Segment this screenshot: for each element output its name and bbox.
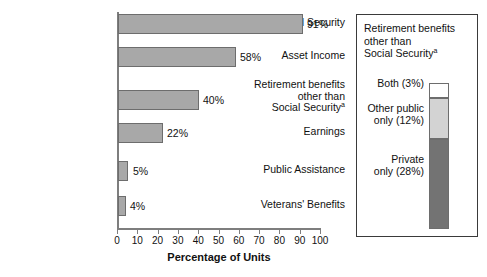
stack-segment-both bbox=[429, 83, 449, 98]
x-tick-80 bbox=[279, 229, 280, 234]
bar-value-earnings: 22% bbox=[167, 127, 188, 139]
bar-value-social-security: 91% bbox=[307, 18, 328, 30]
x-tick-label-100: 100 bbox=[307, 235, 333, 246]
bar-asset-income bbox=[118, 47, 236, 67]
bar-value-veterans-benefits: 4% bbox=[130, 200, 145, 212]
breakdown-panel-title: Retirement benefits other than Social Se… bbox=[364, 22, 476, 60]
x-axis-title: Percentage of Units bbox=[117, 251, 321, 263]
bar-chart-panel: Social Security Asset Income Retirement … bbox=[0, 0, 345, 277]
category-label-retirement-benefits: Retirement benefits other than Social Se… bbox=[235, 79, 345, 114]
bar-veterans-benefits bbox=[118, 196, 126, 216]
x-tick-20 bbox=[158, 229, 159, 234]
segment-label-other-public-only: Other public only (12%) bbox=[356, 102, 424, 126]
bar-value-asset-income: 58% bbox=[240, 51, 261, 63]
x-tick-0 bbox=[117, 229, 118, 234]
x-tick-10 bbox=[137, 229, 138, 234]
bar-value-public-assistance: 5% bbox=[133, 165, 148, 177]
category-label-earnings: Earnings bbox=[235, 126, 345, 138]
bar-value-retirement-benefits: 40% bbox=[203, 94, 224, 106]
x-tick-100 bbox=[320, 229, 321, 234]
stacked-bar bbox=[429, 83, 449, 229]
stack-segment-other-public-only bbox=[429, 98, 449, 139]
retirement-benefits-breakdown-panel: Retirement benefits other than Social Se… bbox=[356, 14, 478, 237]
x-tick-40 bbox=[198, 229, 199, 234]
bar-social-security bbox=[118, 14, 303, 34]
footnote-marker-a: a bbox=[433, 47, 437, 54]
x-tick-30 bbox=[178, 229, 179, 234]
x-tick-50 bbox=[219, 229, 220, 234]
segment-label-both: Both (3%) bbox=[356, 77, 424, 89]
segment-label-private-only: Private only (28%) bbox=[356, 153, 424, 177]
bar-public-assistance bbox=[118, 161, 128, 181]
category-label-veterans-benefits: Veterans' Benefits bbox=[235, 199, 345, 211]
category-label-public-assistance: Public Assistance bbox=[235, 164, 345, 176]
bar-earnings bbox=[118, 123, 163, 143]
x-tick-60 bbox=[239, 229, 240, 234]
footnote-marker-a: a bbox=[341, 101, 345, 108]
x-tick-90 bbox=[300, 229, 301, 234]
stack-segment-private-only bbox=[429, 139, 449, 229]
bar-retirement-benefits bbox=[118, 90, 199, 110]
x-tick-70 bbox=[259, 229, 260, 234]
